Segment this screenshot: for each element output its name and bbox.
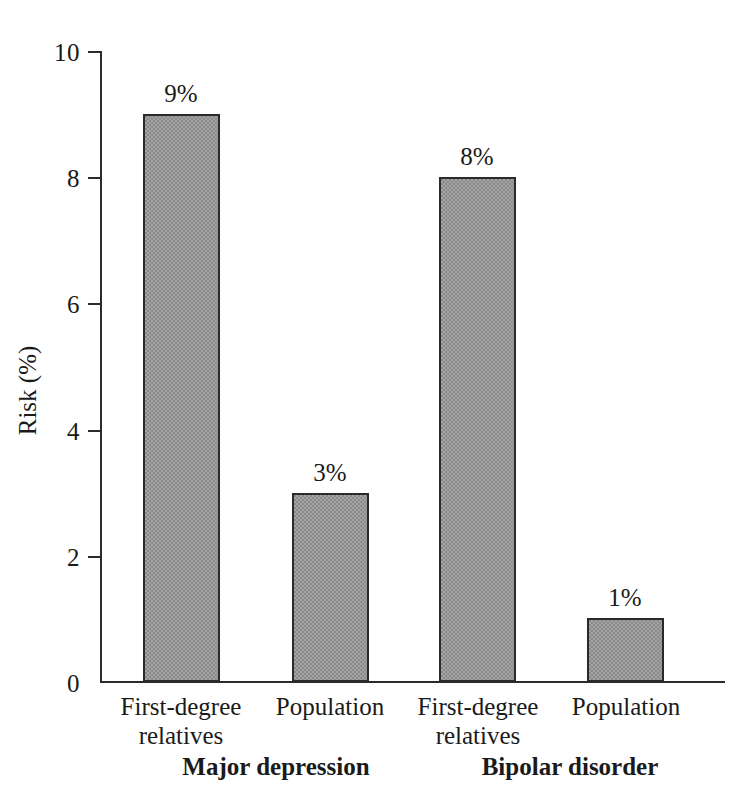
bar-chart: Risk (%) 10 8 6 4 2 0 9% 3% 8% 1% First-… bbox=[0, 0, 737, 809]
bar-major-depression-population bbox=[292, 493, 369, 682]
bar-value-label-2: 3% bbox=[280, 460, 380, 485]
category-label-4-line1: Population bbox=[541, 692, 711, 721]
y-tick-mark-10 bbox=[88, 51, 102, 53]
y-tick-label-8: 8 bbox=[22, 166, 80, 191]
bar-value-label-4: 1% bbox=[575, 585, 675, 610]
category-label-1-line2: relatives bbox=[91, 721, 271, 750]
y-tick-mark-2 bbox=[88, 556, 102, 558]
bar-value-label-1: 9% bbox=[131, 81, 231, 106]
y-tick-mark-6 bbox=[88, 303, 102, 305]
y-tick-label-0: 0 bbox=[22, 671, 80, 696]
bar-bipolar-disorder-population bbox=[587, 618, 664, 682]
y-tick-label-2: 2 bbox=[22, 545, 80, 570]
bar-bipolar-disorder-first-degree-relatives bbox=[439, 177, 516, 682]
y-tick-label-10: 10 bbox=[22, 40, 80, 65]
y-tick-label-6: 6 bbox=[22, 292, 80, 317]
bar-value-label-3: 8% bbox=[427, 144, 527, 169]
y-axis-line bbox=[100, 52, 102, 683]
bar-major-depression-first-degree-relatives bbox=[143, 114, 220, 682]
y-tick-mark-8 bbox=[88, 177, 102, 179]
category-label-3-line2: relatives bbox=[388, 721, 568, 750]
y-tick-label-4: 4 bbox=[22, 419, 80, 444]
group-label-major-depression: Major depression bbox=[146, 753, 406, 781]
category-label-1-line1: First-degree bbox=[91, 692, 271, 721]
group-label-bipolar-disorder: Bipolar disorder bbox=[440, 753, 700, 781]
y-tick-mark-4 bbox=[88, 430, 102, 432]
